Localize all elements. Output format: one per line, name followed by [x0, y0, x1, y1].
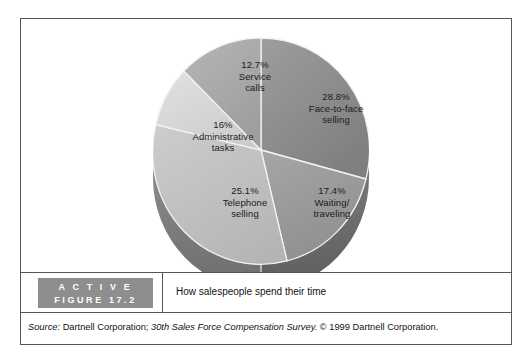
- figure-root: 28.8% Face-to-face selling 17.4% Waiting…: [0, 0, 531, 361]
- slice-name-service-line1: Service: [239, 71, 271, 82]
- slice-label-service-calls: 12.7% Service calls: [219, 59, 291, 94]
- slice-label-administrative-tasks: 16% Administrative tasks: [171, 119, 275, 154]
- slice-label-face-to-face-selling: 28.8% Face-to-face selling: [293, 91, 379, 126]
- active-figure-badge-line2: FIGURE 17.2: [38, 294, 153, 307]
- slice-name-administrative-line1: Administrative: [192, 131, 253, 142]
- slice-name-waiting-line1: Waiting/: [315, 197, 350, 208]
- source-organization: Dartnell Corporation;: [60, 322, 151, 332]
- slice-value-face-to-face: 28.8%: [322, 91, 349, 102]
- slice-value-waiting: 17.4%: [318, 185, 345, 196]
- source-prefix: Source:: [28, 322, 60, 332]
- caption-divider: [162, 273, 163, 313]
- slice-name-telephone-line1: Telephone: [223, 197, 268, 208]
- figure-caption-text: How salespeople spend their time: [176, 286, 326, 297]
- active-figure-badge: A C T I V E FIGURE 17.2: [38, 278, 153, 308]
- source-copyright: © 1999 Dartnell Corporation.: [317, 322, 438, 332]
- figure-source-row: Source: Dartnell Corporation; 30th Sales…: [21, 312, 511, 344]
- slice-value-service: 12.7%: [241, 59, 268, 70]
- active-figure-badge-line1: A C T I V E: [59, 282, 133, 292]
- slice-name-administrative-line2: tasks: [212, 142, 235, 153]
- slice-value-administrative: 16%: [213, 119, 232, 130]
- slice-name-face-to-face-line1: Face-to-face: [309, 103, 364, 114]
- figure-source-text: Source: Dartnell Corporation; 30th Sales…: [28, 322, 438, 332]
- source-title: 30th Sales Force Compensation Survey.: [151, 322, 317, 332]
- slice-name-service-line2: calls: [245, 82, 265, 93]
- slice-label-telephone-selling: 25.1% Telephone selling: [203, 185, 287, 220]
- slice-name-waiting-line2: traveling: [314, 208, 351, 219]
- slice-label-waiting-traveling: 17.4% Waiting/ traveling: [293, 185, 371, 220]
- pie-chart-area: 28.8% Face-to-face selling 17.4% Waiting…: [21, 19, 511, 272]
- figure-frame: 28.8% Face-to-face selling 17.4% Waiting…: [20, 18, 512, 345]
- slice-name-face-to-face-line2: selling: [322, 114, 350, 125]
- figure-caption-row: A C T I V E FIGURE 17.2 How salespeople …: [21, 272, 511, 312]
- slice-name-telephone-line2: selling: [231, 208, 259, 219]
- slice-value-telephone: 25.1%: [231, 185, 258, 196]
